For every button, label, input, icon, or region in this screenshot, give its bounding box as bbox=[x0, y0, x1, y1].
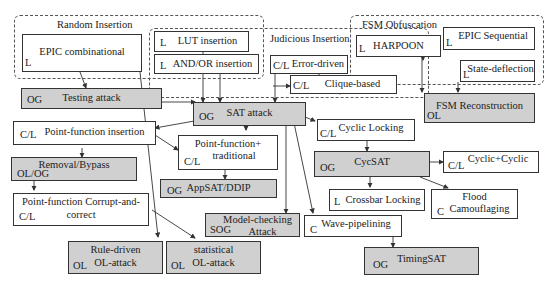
node-point-function-corrupt-and-correct[interactable]: Point-function Corrupt-and- correct C/L bbox=[13, 193, 149, 226]
node-flood-camouflaging[interactable]: Flood Camouflaging C bbox=[431, 189, 518, 219]
node-model-checking-attack[interactable]: Model-checking SOG Attack bbox=[205, 213, 300, 237]
node-cycsat[interactable]: OG CycSAT bbox=[314, 151, 430, 177]
node-crossbar-locking[interactable]: L Crossbar Locking bbox=[329, 189, 425, 211]
node-cyclic-locking[interactable]: Cyclic Locking C/L bbox=[317, 119, 415, 141]
node-removal-bypass[interactable]: Removal/Bypass OL/OG bbox=[11, 157, 137, 181]
node-point-function-traditional[interactable]: Point-function+ traditional C/L bbox=[178, 135, 278, 170]
node-appsat-ddip[interactable]: OG AppSAT/DDIP bbox=[160, 179, 277, 198]
group-label: Judicious Insertion bbox=[270, 33, 350, 44]
node-testing-attack[interactable]: OG Testing attack bbox=[21, 88, 162, 109]
node-epic-sequential[interactable]: EPIC Sequential L bbox=[443, 27, 535, 50]
node-clique-based[interactable]: C/L Clique-based bbox=[290, 75, 397, 94]
node-and-or-insertion[interactable]: L AND/OR insertion bbox=[154, 54, 259, 74]
node-epic-combinational[interactable]: EPIC combinational L bbox=[22, 34, 142, 72]
node-point-function-insertion[interactable]: C/L Point-function insertion bbox=[13, 121, 156, 145]
node-cyclic-cyclic[interactable]: Cyclic+Cyclic C/L bbox=[443, 151, 539, 173]
node-wave-pipelining[interactable]: Wave-pipelining C bbox=[304, 215, 402, 237]
group-label: Random Insertion bbox=[57, 19, 133, 30]
node-sat-attack[interactable]: OG SAT attack bbox=[193, 102, 306, 126]
node-statistical-ol-attack[interactable]: statistical OL-attack OL bbox=[166, 241, 261, 274]
node-harpoon[interactable]: HARPOON L bbox=[356, 35, 441, 57]
node-state-deflection[interactable]: State-deflection L bbox=[460, 60, 535, 82]
node-error-driven[interactable]: C/L Error-driven bbox=[270, 55, 348, 74]
node-lut-insertion[interactable]: L LUT insertion bbox=[154, 31, 249, 52]
group-label: FSM Obfuscation bbox=[362, 19, 437, 30]
node-timingsat[interactable]: OG TimingSAT bbox=[364, 247, 479, 275]
node-rule-driven-ol-attack[interactable]: Rule-driven OL-attack OL bbox=[68, 241, 163, 274]
node-fsm-reconstruction[interactable]: FSM Reconstruction OL bbox=[424, 93, 535, 123]
